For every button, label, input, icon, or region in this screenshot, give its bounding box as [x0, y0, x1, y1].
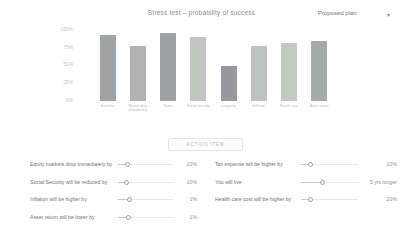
stress-value: 20%: [328, 196, 397, 202]
slider-knob[interactable]: [320, 180, 325, 185]
stress-value: 1%: [168, 214, 197, 220]
stress-slider[interactable]: [118, 213, 173, 222]
slider-knob[interactable]: [126, 215, 131, 220]
stress-row: Health care cost will be higher by20%: [0, 195, 403, 205]
y-axis-tick-label: 0%: [50, 98, 73, 103]
stress-label: Asset return will be lower by: [30, 214, 95, 220]
bar-longevity: [221, 66, 237, 102]
stress-label: Tax expense will be higher by: [215, 161, 283, 167]
stress-row: Asset return will be lower by1%: [0, 213, 403, 223]
plan-select[interactable]: Proposed plan ▾: [318, 10, 398, 22]
bar-inflation: [251, 46, 267, 101]
stress-row: Tax expense will be higher by20%: [0, 160, 403, 170]
action-item-button[interactable]: ACTION ITEM: [168, 138, 243, 151]
plan-select-value: Proposed plan: [318, 10, 357, 16]
stress-test-page: Stress test – probability of success Pro…: [0, 0, 403, 231]
bar-taxes: [160, 33, 176, 101]
bar-market-drop-immediately: [130, 46, 146, 101]
y-axis-tick-label: 25%: [50, 80, 73, 85]
bar-chart-plot: BaselineMarket drop immediatelyTaxesSoci…: [78, 30, 340, 101]
y-axis-tick-label: 100%: [50, 27, 73, 32]
slider-knob[interactable]: [308, 197, 313, 202]
bar-health-care: [281, 43, 297, 101]
y-axis-tick-label: 75%: [50, 45, 73, 50]
stress-value: 20%: [328, 161, 397, 167]
chevron-down-icon: ▾: [387, 11, 390, 18]
bar-asset-return: [311, 41, 327, 101]
bar-baseline: [100, 35, 116, 101]
slider-fill: [301, 182, 322, 183]
stress-label: Health care cost will be higher by: [215, 196, 291, 202]
bar-label: Asset return: [301, 104, 337, 108]
slider-knob[interactable]: [308, 162, 313, 167]
stress-value: 5 yrs longer: [328, 179, 397, 185]
stress-row: You will live5 yrs longer: [0, 178, 403, 188]
bar-social-security: [190, 37, 206, 101]
y-axis-tick-label: 50%: [50, 62, 73, 67]
stress-label: You will live: [215, 179, 242, 185]
